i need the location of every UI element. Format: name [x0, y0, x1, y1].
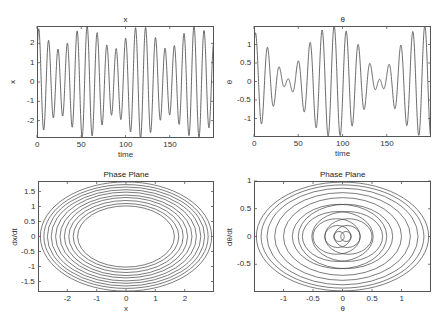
orbit-ring	[325, 219, 372, 255]
y-tick-label: 0	[247, 78, 251, 86]
y-axis-label: x	[9, 80, 17, 84]
x-tick-label: 50	[294, 140, 303, 148]
x-tick-label: 0	[124, 295, 128, 303]
orbit-ring	[261, 185, 424, 288]
y-tick-label: 2	[30, 39, 34, 47]
orbit-ring	[275, 193, 411, 281]
x-tick-label: -0.5	[306, 295, 320, 303]
y-axis-label: dx/dt	[10, 228, 18, 245]
y-tick-label: -0.5	[237, 260, 251, 268]
x-tick-label: 50	[77, 141, 86, 149]
x-tick-label: 150	[163, 141, 176, 149]
axes-theta_time	[254, 26, 431, 137]
y-tick-label: -1	[244, 115, 251, 123]
orbit-ring	[284, 198, 402, 276]
y-tick-label: -0.5	[21, 248, 35, 256]
orbit-ring	[256, 182, 428, 291]
x-tick-label: 100	[336, 140, 349, 148]
y-tick-label: 1	[247, 41, 251, 49]
orbit-ring	[292, 204, 386, 268]
x-axis-label: time	[118, 151, 133, 159]
series-line	[254, 26, 431, 136]
orbit-ring	[313, 219, 360, 255]
orbit-ring	[40, 182, 211, 291]
x-tick-label: 2	[183, 295, 187, 303]
chart-title: x	[124, 16, 128, 24]
orbit-ring	[267, 188, 418, 285]
x-tick-label: -2	[64, 295, 71, 303]
x-tick-label: 1	[400, 295, 404, 303]
y-tick-label: 0	[30, 78, 34, 86]
y-axis-label: θ	[226, 79, 234, 83]
y-tick-label: 0	[247, 233, 251, 241]
x-tick-label: -1	[280, 295, 287, 303]
x-axis-label: time	[335, 150, 350, 158]
plot-area-theta_phase	[256, 182, 428, 291]
y-tick-label: 0.5	[24, 218, 35, 226]
x-tick-label: 0	[35, 141, 39, 149]
y-tick-label: 1	[31, 203, 35, 211]
orbit-ring	[69, 201, 183, 273]
x-tick-label: 0.5	[367, 295, 378, 303]
orbit-ring	[78, 206, 175, 267]
x-tick-label: 150	[380, 140, 393, 148]
y-tick-label: 0.5	[240, 59, 251, 67]
y-tick-label: 1	[247, 177, 251, 185]
figure-canvas	[0, 0, 447, 328]
orbit-ring	[73, 204, 179, 270]
plot-area-x_time	[37, 26, 214, 138]
chart-title: θ	[341, 16, 345, 24]
x-tick-label: 100	[119, 141, 132, 149]
y-tick-label: -1	[27, 97, 34, 105]
chart-title: Phase Plane	[320, 171, 365, 179]
y-tick-label: -2	[27, 117, 34, 125]
orbit-ring	[60, 195, 192, 278]
orbit-ring	[47, 187, 204, 286]
y-tick-label: -0.5	[237, 96, 251, 104]
x-tick-label: 0	[341, 295, 345, 303]
series-line	[37, 26, 214, 138]
orbit-ring	[341, 232, 352, 242]
axes-box	[38, 27, 214, 138]
y-tick-label: 1	[30, 59, 34, 67]
chart-title: Phase Plane	[104, 171, 149, 179]
plot-area-x_phase	[40, 182, 211, 291]
y-axis-label: dθ/dt	[226, 228, 234, 246]
x-tick-label: -1	[93, 295, 100, 303]
y-tick-label: 1.5	[24, 188, 35, 196]
x-axis-label: x	[124, 305, 128, 313]
y-tick-label: 0.5	[240, 205, 251, 213]
axes-x_phase	[38, 181, 214, 292]
y-tick-label: -1	[28, 263, 35, 271]
plot-area-theta_time	[254, 26, 431, 136]
orbit-ring	[64, 198, 187, 276]
axes-theta_phase	[254, 181, 431, 292]
x-axis-label: θ	[341, 305, 345, 313]
axes-x_time	[37, 26, 214, 138]
orbit-ring	[56, 192, 197, 281]
x-tick-label: 1	[153, 295, 157, 303]
y-tick-label: -1.5	[21, 278, 35, 286]
x-tick-label: 0	[252, 140, 256, 148]
y-tick-label: 0	[31, 233, 35, 241]
orbit-ring	[298, 204, 392, 268]
